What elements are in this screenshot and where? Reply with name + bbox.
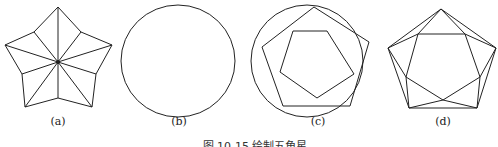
circle-diagram-b [121, 5, 235, 117]
figure-caption: 图 10-15 绘制五角星 [200, 137, 310, 147]
star-diagram-a [5, 7, 112, 107]
circle-pentagon-diagram-c [251, 5, 369, 117]
panel-label-b: (b) [159, 115, 199, 128]
panel-label-d: (d) [423, 115, 463, 128]
panel-label-a: (a) [38, 115, 78, 128]
pentagon-diagram-d [388, 9, 496, 108]
panel-label-c: (c) [298, 115, 338, 128]
